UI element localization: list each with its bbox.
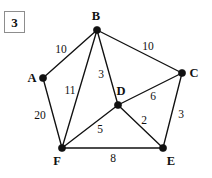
- node-b: [93, 26, 100, 33]
- graph-diagram: [0, 0, 212, 178]
- node-f: [58, 144, 65, 151]
- edge-weight-d-c: 6: [150, 91, 156, 103]
- node-label-e: E: [167, 155, 175, 168]
- edge-weight-c-e: 3: [178, 109, 184, 121]
- node-a: [39, 74, 46, 81]
- edge-weight-f-d: 5: [97, 124, 103, 136]
- node-label-b: B: [92, 10, 100, 23]
- node-c: [178, 69, 185, 76]
- node-label-d: D: [116, 85, 125, 98]
- edge-weight-a-b: 10: [55, 44, 67, 56]
- node-label-f: F: [53, 155, 61, 168]
- node-label-c: C: [189, 67, 198, 80]
- edge-weight-b-d: 3: [98, 69, 104, 81]
- edge-weight-b-f: 11: [64, 85, 75, 97]
- edge-weight-f-e: 8: [110, 153, 116, 165]
- edge-weight-b-c: 10: [142, 41, 154, 53]
- edge-a-b: [43, 30, 97, 78]
- edge-weight-a-f: 20: [34, 110, 46, 122]
- node-d: [114, 101, 121, 108]
- node-e: [159, 144, 166, 151]
- edge-weight-d-e: 2: [141, 115, 147, 127]
- figure-canvas: 3 10103112063258ABCDEF: [0, 0, 212, 178]
- edge-f-d: [62, 105, 118, 148]
- node-label-a: A: [27, 72, 36, 85]
- edge-b-c: [97, 30, 182, 73]
